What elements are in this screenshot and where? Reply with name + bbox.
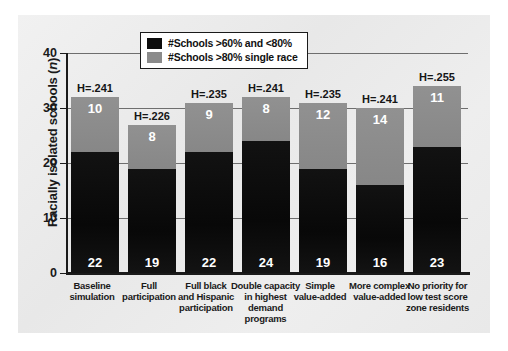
bar-segment-gray-6[interactable]: 11 <box>413 86 461 147</box>
h-annotation-3: H=.241 <box>248 82 284 94</box>
bar-value-black-4: 19 <box>299 255 347 270</box>
bar-value-black-1: 19 <box>128 255 176 270</box>
bar-value-gray-4: 12 <box>299 107 347 122</box>
x-axis-label-6-line-2: zone residents <box>400 302 475 313</box>
bar-segment-black-2[interactable]: 22 <box>185 152 233 273</box>
y-tick-label-10: 10 <box>43 211 57 225</box>
y-tick-label-20: 20 <box>43 156 57 170</box>
bar-value-black-6: 23 <box>413 255 461 270</box>
legend-item-0[interactable]: #Schools >60% and <80% <box>147 36 301 50</box>
bar-value-black-3: 24 <box>242 255 290 270</box>
y-axis-title-text: Racially isolated schools ( <box>45 70 60 227</box>
h-annotation-4: H=.235 <box>305 88 341 100</box>
y-tick-0 <box>60 273 67 274</box>
bar-segment-black-5[interactable]: 16 <box>356 185 404 273</box>
chart-legend: #Schools >60% and <80% #Schools >80% sin… <box>140 32 308 69</box>
y-tick-40 <box>60 53 67 54</box>
x-axis-label-6: No priority for low test score zone resi… <box>400 280 475 313</box>
bar-value-black-5: 16 <box>356 255 404 270</box>
bar-value-gray-1: 8 <box>128 129 176 144</box>
x-axis-label-6-line-1: low test score <box>400 291 475 302</box>
legend-item-1[interactable]: #Schools >80% single race <box>147 50 301 64</box>
bar-value-gray-0: 10 <box>71 101 119 116</box>
y-tick-20 <box>60 163 67 164</box>
bar-value-gray-6: 11 <box>413 90 461 105</box>
bar-segment-black-3[interactable]: 24 <box>242 141 290 273</box>
bar-value-black-2: 22 <box>185 255 233 270</box>
y-tick-label-40: 40 <box>43 46 57 60</box>
bar-segment-gray-3[interactable]: 8 <box>242 97 290 141</box>
bar-segment-gray-0[interactable]: 10 <box>71 97 119 152</box>
bar-segment-black-1[interactable]: 19 <box>128 169 176 274</box>
legend-swatch-gray-icon <box>147 52 162 63</box>
h-annotation-2: H=.235 <box>191 88 227 100</box>
bar-segment-gray-4[interactable]: 12 <box>299 103 347 169</box>
bar-segment-black-4[interactable]: 19 <box>299 169 347 274</box>
figure-panel: Racially isolated schools (n) 40 30 20 1… <box>18 15 490 333</box>
y-tick-label-30: 30 <box>43 101 57 115</box>
h-annotation-5: H=.241 <box>362 93 398 105</box>
y-tick-label-0: 0 <box>50 266 57 280</box>
plot-area: 40 30 20 10 0 H=.241 10 22 H=.226 8 <box>68 53 468 273</box>
h-annotation-1: H=.226 <box>134 110 170 122</box>
bar-segment-black-0[interactable]: 22 <box>71 152 119 273</box>
legend-label-0: #Schools >60% and <80% <box>168 37 292 49</box>
h-annotation-0: H=.241 <box>77 82 113 94</box>
bar-segment-gray-1[interactable]: 8 <box>128 125 176 169</box>
bar-value-gray-2: 9 <box>185 107 233 122</box>
bar-value-gray-5: 14 <box>356 112 404 127</box>
bar-segment-black-6[interactable]: 23 <box>413 147 461 274</box>
bar-value-black-0: 22 <box>71 255 119 270</box>
h-annotation-6: H=.255 <box>419 71 455 83</box>
bar-value-gray-3: 8 <box>242 101 290 116</box>
legend-swatch-black-icon <box>147 38 162 49</box>
x-axis-label-3-line-2: demand <box>229 302 302 313</box>
y-tick-10 <box>60 218 67 219</box>
x-axis-label-3-line-3: programs <box>229 313 302 324</box>
y-tick-30 <box>60 108 67 109</box>
bar-segment-gray-2[interactable]: 9 <box>185 103 233 153</box>
x-axis-label-6-line-0: No priority for <box>400 280 475 291</box>
bar-segment-gray-5[interactable]: 14 <box>356 108 404 185</box>
y-axis-title-italic: n <box>45 62 60 70</box>
legend-label-1: #Schools >80% single race <box>168 51 298 63</box>
